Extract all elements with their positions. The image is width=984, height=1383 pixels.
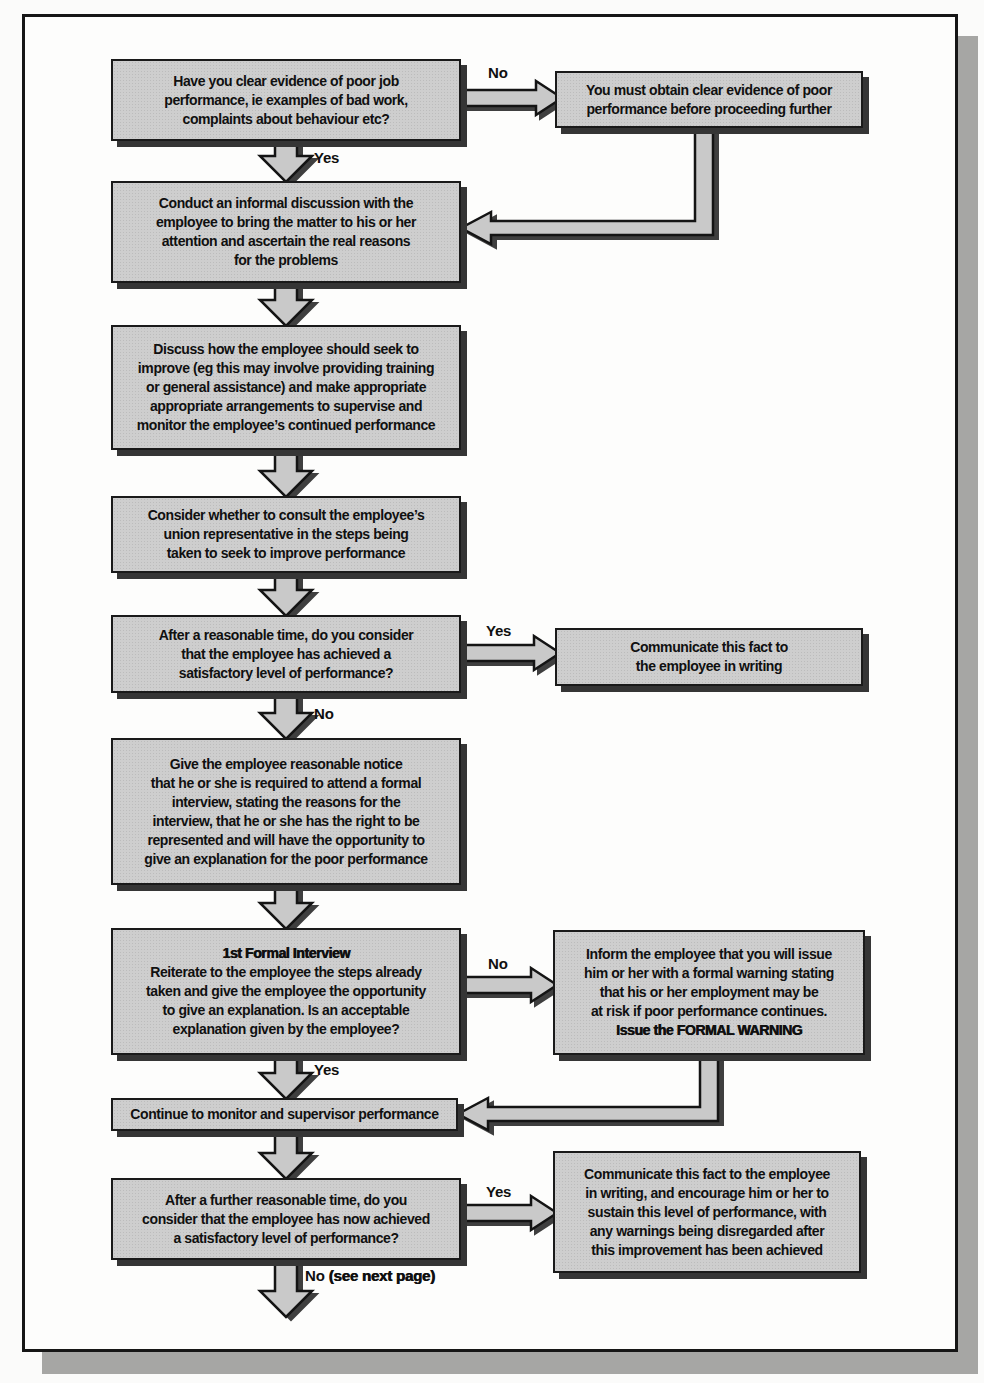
box-further-time-question-text: After a further reasonable time, do you … [142,1191,430,1248]
box-discuss-improvement-text: Discuss how the employee should seek to … [137,340,436,435]
box-formal-interview-notice: Give the employee reasonable notice that… [111,738,461,885]
box-reasonable-time-question-text: After a reasonable time, do you consider… [159,626,414,683]
down-arrow-6 [260,879,312,929]
box-informal-discussion-text: Conduct an informal discussion with the … [156,194,416,270]
box-evidence-question: Have you clear evidence of poor job perf… [111,59,461,141]
box-obtain-evidence-text: You must obtain clear evidence of poor p… [586,81,832,119]
box-issue-formal-warning: Inform the employee that you will issue … [553,930,865,1055]
label-yes-1: Yes [314,149,339,166]
down-arrow-3 [260,444,312,497]
down-arrow-yes-7 [260,1049,312,1099]
down-arrow-8 [260,1125,312,1179]
label-no-see-next-page: No (see next page) [305,1267,435,1284]
label-yes-3: Yes [314,1061,339,1078]
box-reasonable-time-question: After a reasonable time, do you consider… [111,615,461,693]
box-issue-formal-warning-emphasis: Issue the FORMAL WARNING [616,1021,802,1040]
label-yes-2: Yes [486,622,511,639]
box-first-formal-interview: 1st Formal Interview Reiterate to the em… [111,928,461,1055]
down-arrow-no-2 [260,687,312,739]
label-no-2: No [314,705,334,722]
box-consider-union-text: Consider whether to consult the employee… [148,506,425,563]
document-page: Have you clear evidence of poor job perf… [22,14,958,1352]
box-evidence-question-text: Have you clear evidence of poor job perf… [164,72,408,129]
down-arrow-2 [260,277,312,326]
box-communicate-sustain-text: Communicate this fact to the employee in… [584,1165,830,1260]
box-consider-union: Consider whether to consult the employee… [111,496,461,573]
label-see-next-page: (see next page) [329,1267,435,1284]
label-no-3: No [488,955,508,972]
box-first-formal-interview-text: Reiterate to the employee the steps alre… [146,963,426,1039]
box-continue-monitor-text: Continue to monitor and supervisor perfo… [130,1105,438,1124]
box-formal-interview-notice-text: Give the employee reasonable notice that… [144,755,427,869]
elbow-connector-obtain-evidence [461,123,713,244]
box-continue-monitor: Continue to monitor and supervisor perfo… [111,1098,458,1131]
box-obtain-evidence: You must obtain clear evidence of poor p… [555,71,863,128]
down-arrow-yes-1 [260,135,312,182]
label-yes-4: Yes [486,1183,511,1200]
box-discuss-improvement: Discuss how the employee should seek to … [111,325,461,450]
elbow-connector-formal-warning [458,1050,718,1130]
box-communicate-in-writing-text: Communicate this fact to the employee in… [630,638,788,676]
box-communicate-sustain: Communicate this fact to the employee in… [553,1151,861,1273]
box-first-formal-interview-title: 1st Formal Interview [222,944,349,963]
label-no-4: No [305,1267,325,1284]
box-further-time-question: After a further reasonable time, do you … [111,1178,461,1260]
label-no-1: No [488,64,508,81]
box-issue-formal-warning-text: Inform the employee that you will issue … [584,945,834,1021]
box-communicate-in-writing: Communicate this fact to the employee in… [555,628,863,686]
down-arrow-4 [260,567,312,616]
box-informal-discussion: Conduct an informal discussion with the … [111,181,461,283]
